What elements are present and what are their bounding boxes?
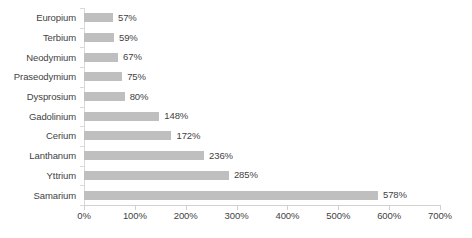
bar: [84, 191, 378, 200]
value-tick-label: 300%: [225, 210, 249, 221]
bar-value-label: 67%: [118, 52, 142, 62]
category-axis-labels: EuropiumTerbiumNeodymiumPraseodymiumDysp…: [0, 8, 80, 205]
value-tick-label: 100%: [123, 210, 147, 221]
bar: [84, 53, 118, 62]
value-tick-label: 500%: [326, 210, 350, 221]
category-label: Yttrium: [47, 170, 80, 181]
bar-value-label: 148%: [159, 111, 188, 121]
bar-value-label: 75%: [122, 72, 146, 82]
value-tick-label: 400%: [275, 210, 299, 221]
category-label: Lanthanum: [29, 150, 80, 161]
bar-row: 172%: [84, 126, 440, 146]
bar-chart: EuropiumTerbiumNeodymiumPraseodymiumDysp…: [0, 0, 472, 238]
plot-area: 57%59%67%75%80%148%172%236%285%578%: [84, 8, 440, 205]
value-tick-label: 600%: [377, 210, 401, 221]
bar-value-label: 59%: [114, 33, 138, 43]
category-label: Europium: [36, 12, 80, 23]
bar: [84, 131, 171, 140]
bar-row: 148%: [84, 106, 440, 126]
bar: [84, 33, 114, 42]
bar-value-label: 578%: [378, 190, 407, 200]
horizontal-axis-line: [84, 205, 441, 206]
category-label: Gadolinium: [29, 111, 80, 122]
category-label: Dysprosium: [27, 91, 80, 102]
bar: [84, 72, 122, 81]
bar-value-label: 80%: [125, 92, 149, 102]
bar-row: 236%: [84, 146, 440, 166]
category-label: Praseodymium: [14, 71, 80, 82]
bar: [84, 112, 159, 121]
bar-row: 75%: [84, 67, 440, 87]
bar-value-label: 57%: [113, 13, 137, 23]
bar-value-label: 285%: [229, 170, 258, 180]
bar-row: 578%: [84, 185, 440, 205]
category-label: Neodymium: [26, 52, 80, 63]
bar-row: 67%: [84, 47, 440, 67]
bar: [84, 13, 113, 22]
category-label: Terbium: [43, 32, 80, 43]
bar-row: 57%: [84, 8, 440, 28]
category-label: Cerium: [46, 130, 80, 141]
bar-row: 80%: [84, 87, 440, 107]
bar-row: 285%: [84, 166, 440, 186]
bar-row: 59%: [84, 28, 440, 48]
category-label: Samarium: [34, 190, 81, 201]
value-tick-label: 0%: [77, 210, 91, 221]
bar: [84, 151, 204, 160]
bar: [84, 92, 125, 101]
bar-value-label: 172%: [171, 131, 200, 141]
value-tick-label: 200%: [174, 210, 198, 221]
value-tick-label: 700%: [428, 210, 452, 221]
bar-value-label: 236%: [204, 151, 233, 161]
bar-series: 57%59%67%75%80%148%172%236%285%578%: [84, 8, 440, 205]
bar: [84, 171, 229, 180]
